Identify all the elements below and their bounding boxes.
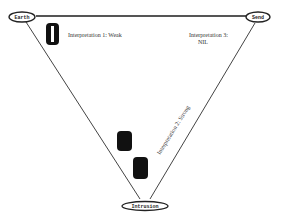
node-earth: Earth <box>9 12 35 22</box>
edge-send-intrusion <box>150 23 255 199</box>
interp3-label-line1: Interpretation 3: <box>189 32 228 39</box>
node-intrusion: Intrusion <box>122 202 168 211</box>
svg-text:Earth: Earth <box>14 15 29 21</box>
strong-glyph-icon-2 <box>133 157 148 179</box>
node-send: Send <box>246 12 270 22</box>
svg-text:Intrusion: Intrusion <box>131 204 158 210</box>
interp1-label: Interpretation 1: Weak <box>68 32 122 39</box>
strong-glyph-icon-1 <box>117 131 132 151</box>
edge-earth-intrusion <box>26 22 140 199</box>
svg-text:Send: Send <box>252 15 264 21</box>
interp3-label-line2: NIL <box>198 39 208 46</box>
triangle-diagram: Earth Send Intrusion Interpretation 2: S… <box>0 0 286 216</box>
weak-glyph-icon <box>46 23 59 45</box>
interp2-label: Interpretation 2: Strong <box>156 105 191 156</box>
